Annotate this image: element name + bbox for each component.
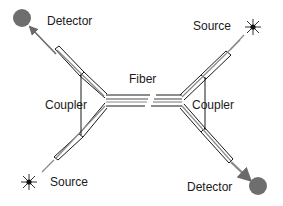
- label-source-top-right: Source: [193, 20, 231, 32]
- detector-top-left-icon: [13, 9, 31, 27]
- coupler-right-lower-arm: [180, 104, 233, 163]
- label-detector-top-left: Detector: [47, 15, 92, 27]
- label-detector-bottom-right: Detector: [187, 181, 232, 193]
- signal-arrow-to-detector-top-left: [30, 27, 56, 54]
- signal-arrow-to-detector-bottom-right: [231, 162, 250, 180]
- source-top-right-beam: [230, 35, 244, 50]
- source-top-right-icon: [245, 19, 261, 35]
- detector-bottom-right-icon: [249, 177, 267, 195]
- label-coupler-right: Coupler: [192, 99, 234, 111]
- fiber-line: [106, 95, 182, 106]
- source-bottom-left-beam: [42, 160, 54, 172]
- source-bottom-left-icon: [21, 174, 37, 190]
- label-fiber: Fiber: [129, 73, 156, 85]
- label-source-bottom-left: Source: [50, 176, 88, 188]
- label-coupler-left: Coupler: [45, 99, 87, 111]
- fiber-coupler-diagram: [0, 0, 283, 206]
